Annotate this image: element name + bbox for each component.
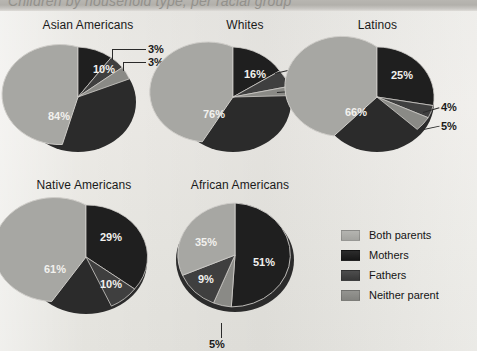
slice-value-mothers: 51% — [253, 256, 275, 268]
pie-svg: 10% 84% — [8, 36, 168, 161]
slice-value-both-parents: 35% — [195, 236, 217, 248]
leader-line-fathers — [112, 49, 146, 50]
legend-swatch-icon-both-parents — [341, 230, 360, 241]
legend-swatch-icon-neither-parent — [341, 290, 360, 301]
legend-item-fathers: Fathers — [341, 265, 473, 285]
leader-line-neither — [221, 323, 222, 338]
slice-value-mothers: 29% — [100, 231, 122, 243]
legend-swatch-icon-fathers — [341, 270, 360, 281]
callout-neither: 5% — [441, 120, 457, 132]
slice-value-fathers: 9% — [198, 273, 214, 285]
pie-svg: 51% 35% 9% — [165, 196, 335, 326]
slice-value-both-parents: 76% — [203, 108, 225, 120]
leader-line-neither-stem — [123, 62, 124, 71]
chart-title: Asian Americans — [8, 18, 168, 32]
callout-fathers: 4% — [441, 101, 457, 113]
pie-chart-african-americans: African Americans 51% 35% 9% 5% — [165, 178, 335, 350]
chart-title: Whites — [165, 18, 325, 32]
legend: Both parents Mothers Fathers Neither par… — [341, 225, 473, 305]
pie-graphic: 51% 35% 9% — [165, 196, 335, 308]
pie-graphic: 29% 61% 10% — [14, 196, 184, 308]
slice-value-both-parents: 61% — [44, 263, 66, 275]
legend-label: Neither parent — [369, 289, 439, 301]
leader-line-neither — [123, 62, 146, 63]
pie-graphic: 10% 84% — [8, 36, 168, 148]
leader-line-fathers-stem — [112, 49, 113, 60]
legend-label: Fathers — [369, 269, 406, 281]
legend-label: Both parents — [369, 229, 431, 241]
chart-title: Native Americans — [14, 178, 154, 192]
legend-label: Mothers — [369, 249, 409, 261]
slice-value-mothers: 25% — [391, 69, 413, 81]
slice-value-mothers: 10% — [93, 63, 115, 75]
slice-value-both-parents: 84% — [48, 110, 70, 122]
pie-chart-latinos: Latinos 25% 66% 4% 5% — [315, 18, 475, 168]
cut-off-title-band: Children by household type, per racial g… — [0, 0, 477, 11]
legend-item-both-parents: Both parents — [341, 225, 473, 245]
callout-neither: 5% — [209, 338, 225, 350]
chart-title: African Americans — [165, 178, 315, 192]
legend-swatch-icon-mothers — [341, 250, 360, 261]
cut-off-title-text: Children by household type, per racial g… — [8, 0, 292, 9]
pie-svg: 25% 66% — [315, 36, 475, 161]
pie-svg: 29% 61% 10% — [14, 196, 184, 326]
legend-item-neither-parent: Neither parent — [341, 285, 473, 305]
pie-chart-asian-americans: Asian Americans 10% 84% 3% 3% — [8, 18, 168, 168]
callout-fathers: 3% — [148, 43, 164, 55]
slice-value-fathers: 10% — [100, 278, 122, 290]
legend-item-mothers: Mothers — [341, 245, 473, 265]
pie-chart-native-americans: Native Americans 29% 61% 10% — [14, 178, 184, 343]
slice-value-both-parents: 66% — [345, 106, 367, 118]
figure-page: Children by household type, per racial g… — [0, 0, 477, 351]
slice-value-mothers: 16% — [244, 68, 266, 80]
chart-title: Latinos — [315, 18, 440, 32]
